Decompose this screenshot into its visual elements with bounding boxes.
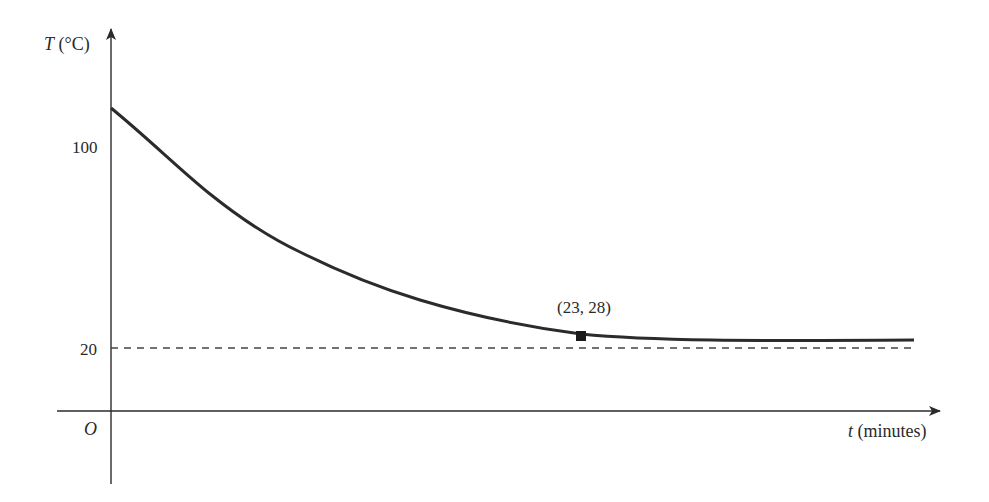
- x-axis-var: t: [848, 421, 853, 441]
- data-point-marker: [576, 331, 586, 341]
- y-axis-var: T: [44, 34, 54, 54]
- origin-label: O: [84, 420, 97, 438]
- x-axis-unit: (minutes): [858, 421, 927, 441]
- y-axis-unit: (°C): [59, 34, 90, 54]
- chart-canvas: [0, 0, 989, 502]
- y-tick-20: 20: [80, 341, 97, 358]
- x-axis-label: t (minutes): [848, 422, 927, 440]
- y-axis-label: T (°C): [44, 35, 90, 53]
- y-tick-100: 100: [72, 139, 98, 156]
- point-annotation: (23, 28): [557, 299, 611, 316]
- cooling-curve: [111, 108, 914, 340]
